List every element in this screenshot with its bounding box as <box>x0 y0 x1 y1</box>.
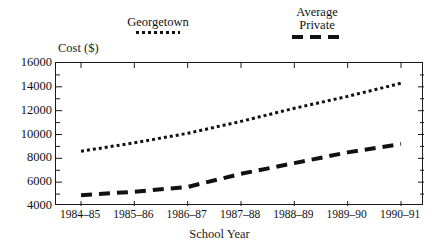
x-tick-label: 1985–86 <box>113 208 153 220</box>
legend-label-average-private-line1: Average <box>262 6 372 19</box>
data-series-layer <box>81 83 401 195</box>
plot-series-canvas <box>56 63 424 206</box>
y-tick-label: 10000 <box>4 126 52 141</box>
y-tick-label: 6000 <box>4 174 52 189</box>
x-axis-title: School Year <box>0 227 439 242</box>
legend-swatch-dashed-icon <box>292 35 342 39</box>
legend-entry-georgetown: Georgetown <box>96 16 220 34</box>
axis-ticks-layer <box>56 63 424 206</box>
y-tick-label: 14000 <box>4 78 52 93</box>
legend-entry-average-private: Average Private <box>262 6 372 39</box>
legend-label-georgetown: Georgetown <box>96 16 220 29</box>
x-tick-label: 1989–90 <box>327 208 367 220</box>
y-tick-label: 12000 <box>4 102 52 117</box>
series-line-average-private <box>81 144 401 195</box>
chart-figure: Georgetown Average Private Cost ($) Scho… <box>0 0 439 250</box>
y-tick-label: 8000 <box>4 150 52 165</box>
x-tick-label: 1986–87 <box>167 208 207 220</box>
x-tick-label: 1990–91 <box>380 208 420 220</box>
plot-area <box>55 62 423 205</box>
legend-label-average-private-line2: Private <box>262 19 372 32</box>
x-tick-label: 1988–89 <box>273 208 313 220</box>
y-axis-title: Cost ($) <box>58 41 99 56</box>
x-axis-tick-labels: 1984–851985–861986–871987–881988–891989–… <box>0 208 439 226</box>
y-tick-label: 16000 <box>4 55 52 70</box>
legend-swatch-dotted-icon <box>136 31 180 34</box>
series-line-georgetown <box>81 83 401 151</box>
x-tick-label: 1987–88 <box>220 208 260 220</box>
x-tick-label: 1984–85 <box>60 208 100 220</box>
